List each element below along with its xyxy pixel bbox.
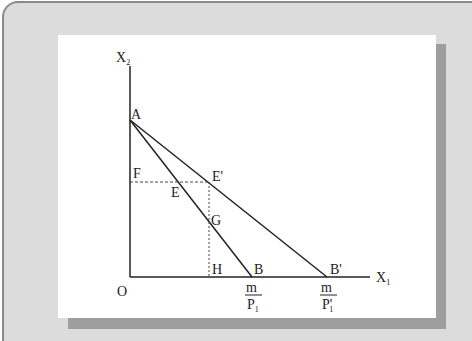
- intercept-B-numerator: m: [246, 280, 257, 295]
- intercept-B-prime-denominator: P'1: [322, 297, 333, 314]
- intercept-B-prime-numerator: m: [321, 280, 332, 295]
- intercept-B-denominator: P1: [247, 297, 259, 314]
- y-axis-label: X2: [116, 50, 130, 67]
- budget-line-AB: [130, 120, 252, 277]
- point-F-label: F: [133, 166, 141, 181]
- budget-line-AB-prime: [130, 120, 327, 277]
- point-G-label: G: [211, 213, 221, 228]
- origin-label: O: [117, 284, 127, 299]
- point-A-label: A: [131, 107, 142, 122]
- point-B-label: B: [254, 262, 263, 277]
- point-E-label: E: [171, 185, 180, 200]
- point-H-label: H: [212, 262, 222, 277]
- point-E-prime-label: E': [212, 169, 223, 184]
- point-B-prime-label: B': [330, 262, 342, 277]
- x-axis-label: X1: [376, 270, 390, 287]
